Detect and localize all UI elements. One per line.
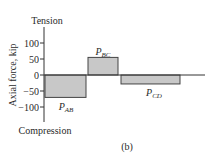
y-tick-label: −100 (18, 102, 39, 113)
y-tick-label: 50 (29, 54, 39, 65)
y-axis-label: Axial force, kip (7, 43, 18, 106)
bar-label-ab: PAB (58, 101, 74, 114)
y-tick-label: 100 (24, 38, 39, 49)
compression-label: Compression (19, 125, 72, 136)
y-tick-label: −50 (23, 86, 39, 97)
bar-p-bc (88, 57, 118, 75)
bar-label-cd: PCD (145, 87, 162, 100)
bar-p-ab (45, 75, 86, 97)
tension-label: Tension (31, 15, 63, 26)
y-tick-label: 0 (34, 70, 39, 81)
axial-force-chart: 100500−50−100Axial force, kipTensionComp… (0, 0, 209, 155)
bar-p-cd (121, 75, 180, 84)
figure-caption: (b) (121, 141, 133, 153)
